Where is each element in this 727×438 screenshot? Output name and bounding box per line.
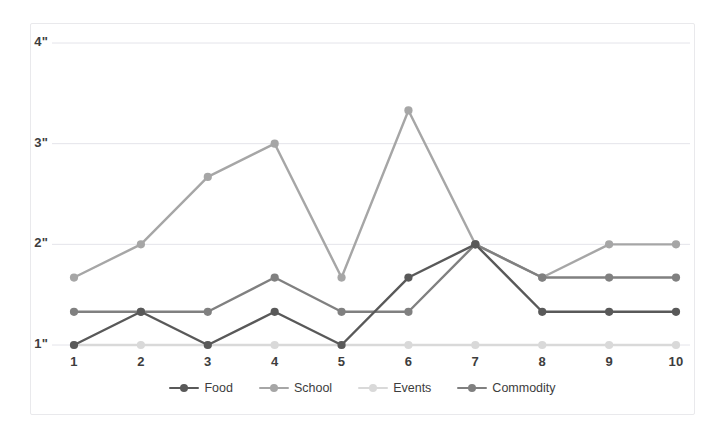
legend-label: Food: [204, 381, 233, 395]
legend-label: School: [294, 381, 332, 395]
legend-label: Events: [393, 381, 431, 395]
legend-item-commodity[interactable]: Commodity: [457, 381, 555, 395]
legend-marker-icon: [468, 384, 476, 392]
x-tick-label-3: 3: [188, 354, 228, 369]
legend-marker-icon: [369, 384, 377, 392]
x-tick-label-2: 2: [121, 354, 161, 369]
x-tick-label-4: 4: [255, 354, 295, 369]
legend-swatch-events-icon: [358, 382, 388, 394]
legend-marker-icon: [180, 384, 188, 392]
legend-label: Commodity: [492, 381, 555, 395]
legend-swatch-commodity-icon: [457, 382, 487, 394]
x-tick-label-7: 7: [455, 354, 495, 369]
x-tick-label-8: 8: [522, 354, 562, 369]
y-tick-label-1: 1": [14, 336, 48, 351]
x-tick-label-9: 9: [589, 354, 629, 369]
legend-swatch-school-icon: [259, 382, 289, 394]
x-tick-label-5: 5: [322, 354, 362, 369]
y-tick-label-4: 4": [14, 34, 48, 49]
x-tick-label-1: 1: [54, 354, 94, 369]
legend-marker-icon: [270, 384, 278, 392]
chart-legend: FoodSchoolEventsCommodity: [30, 381, 695, 395]
x-tick-label-10: 10: [656, 354, 696, 369]
y-tick-label-3: 3": [14, 135, 48, 150]
legend-item-food[interactable]: Food: [169, 381, 233, 395]
legend-item-events[interactable]: Events: [358, 381, 431, 395]
chart-root: 1"2"3"4" 12345678910 FoodSchoolEventsCom…: [0, 0, 727, 438]
legend-item-school[interactable]: School: [259, 381, 332, 395]
legend-swatch-food-icon: [169, 382, 199, 394]
x-tick-label-6: 6: [388, 354, 428, 369]
y-tick-label-2: 2": [14, 235, 48, 250]
